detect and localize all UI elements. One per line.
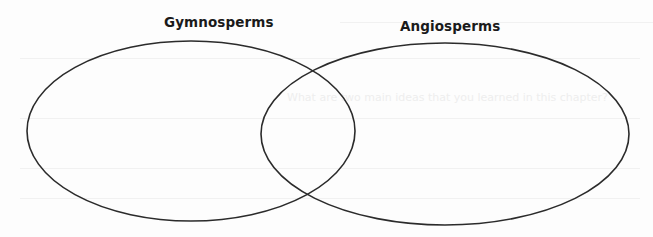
angiosperms-circle: [261, 43, 629, 225]
venn-diagram-canvas: What are two main ideas that you learned…: [0, 0, 653, 237]
angiosperms-label: Angiosperms: [400, 18, 500, 34]
gymnosperms-label: Gymnosperms: [164, 14, 274, 30]
venn-diagram: [0, 0, 653, 237]
